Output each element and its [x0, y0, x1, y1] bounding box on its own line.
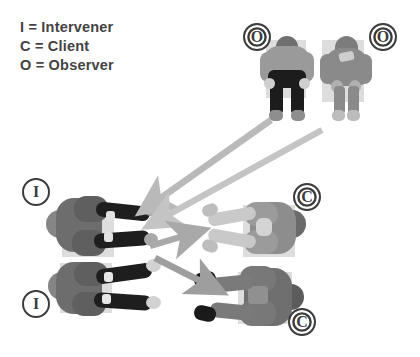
observer-right-shoulder-r — [357, 54, 372, 84]
intervener-figure-bottom — [44, 258, 166, 328]
observer-right-shoulder-l — [320, 54, 335, 84]
intervener-top-cuff-lower — [104, 232, 113, 242]
intervener-top-hand-upper — [144, 203, 158, 216]
intervener-figure-top — [44, 192, 164, 268]
marker-intervener-bottom: I — [22, 290, 50, 318]
intervener-bottom-cuff-upper — [104, 272, 113, 282]
client-bottom-chest-patch — [248, 286, 268, 304]
marker-client-bottom: C — [288, 308, 316, 336]
client-bottom-leg-lower — [209, 302, 254, 322]
intervener-bottom-cuff-lower — [102, 294, 111, 304]
intervener-top-cuff-upper — [106, 211, 115, 221]
observer-right-shoe-r — [347, 110, 360, 121]
diagram-canvas: I = Intervener C = Client O = Observer — [0, 0, 420, 357]
intervener-top-hand-lower — [144, 233, 158, 246]
legend-item-intervener: I = Intervener — [20, 18, 114, 37]
observer-right-shoe-l — [332, 110, 345, 121]
marker-observer-right: O — [369, 23, 397, 51]
observer-left-hand-l — [264, 78, 275, 89]
legend: I = Intervener C = Client O = Observer — [20, 18, 114, 75]
client-top-chest-patch — [256, 218, 272, 236]
intervener-bottom-hand-lower — [146, 296, 161, 309]
observer-left-hand-r — [299, 78, 310, 89]
observer-left-shoe-l — [269, 110, 283, 121]
legend-item-client: C = Client — [20, 37, 114, 56]
observer-figure-right — [318, 34, 374, 122]
intervener-top-arm-lower — [94, 230, 151, 249]
marker-intervener-top: I — [22, 178, 50, 206]
observer-left-shoe-r — [291, 110, 305, 121]
legend-item-observer: O = Observer — [20, 56, 114, 75]
client-figure-top — [200, 198, 310, 264]
marker-observer-left: O — [243, 23, 271, 51]
observer-figure-left — [258, 36, 316, 122]
intervener-bottom-hand-upper — [146, 259, 161, 272]
marker-client-top: C — [293, 183, 321, 211]
